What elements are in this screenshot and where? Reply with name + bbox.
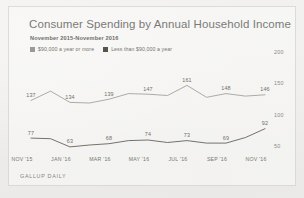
data-point-label: 148 [221,85,231,91]
y-axis-tick: 200 [274,49,284,55]
data-point-label: 137 [26,92,36,98]
data-point-label: 146 [260,86,270,92]
data-point-label: 63 [67,138,73,144]
legend-item-low-income[interactable]: Less than $90,000 a year [103,46,172,52]
data-point-label: 74 [145,131,151,137]
data-point-label: 92 [262,120,268,126]
x-axis-tick: NOV '15 [11,156,32,162]
y-axis-tick: 150 [274,80,284,86]
data-point-label: 147 [143,86,153,92]
legend-label: Less than $90,000 a year [111,46,172,52]
chart-subtitle: November 2015-November 2016 [30,35,119,41]
page-title: Consumer Spending by Annual Household In… [29,18,291,30]
x-axis-tick: MAY '16 [129,156,150,162]
legend-label: $90,000 a year or more [38,46,94,52]
data-point-label: 134 [65,94,75,100]
x-axis: NOV '15JAN '16MAR '16MAY '16JUL '16SEP '… [16,156,268,166]
legend-swatch-icon [103,47,108,52]
x-axis-tick: MAR '16 [89,156,110,162]
legend-item-high-income[interactable]: $90,000 a year or more [30,46,94,52]
line-chart: 13713413914716114814677636874736992 [25,59,277,157]
chart-source: GALLUP DAILY [20,173,66,179]
x-axis-tick: JAN '16 [51,156,71,162]
x-axis-tick: JUL '16 [169,156,188,162]
plot-area: 13713413914716114814677636874736992 [25,59,277,157]
y-axis-tick: 50 [274,143,280,149]
data-point-label: 161 [182,77,192,83]
y-axis-tick: 100 [274,112,284,118]
data-point-label: 69 [223,135,229,141]
x-axis-tick: NOV '16 [245,156,266,162]
data-point-label: 77 [28,130,34,136]
data-point-label: 68 [106,135,112,141]
data-point-label: 73 [184,132,190,138]
x-axis-tick: SEP '16 [207,156,227,162]
chart-legend: $90,000 a year or more Less than $90,000… [30,46,172,52]
legend-swatch-icon [30,47,35,52]
y-axis: 20015010050 [274,50,298,152]
data-point-label: 139 [104,91,114,97]
